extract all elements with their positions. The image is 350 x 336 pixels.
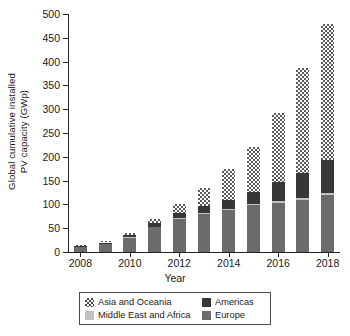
y-tick-mark: [63, 157, 68, 158]
bar-segment-mea: [321, 193, 334, 195]
bar-segment-mea: [198, 213, 211, 214]
y-tick-label: 400: [42, 56, 60, 67]
bar-segment-amer: [74, 246, 87, 247]
bar-segment-amer: [296, 173, 309, 198]
y-tick-mark: [63, 109, 68, 110]
bar-segment-mea: [272, 201, 285, 203]
bar-segment-amer: [123, 235, 136, 237]
bar-2014: [222, 169, 235, 252]
bar-segment-asia: [222, 169, 235, 199]
bar-2017: [296, 68, 309, 252]
bar-segment-europe: [198, 214, 211, 252]
legend-swatch-europe-icon: [202, 311, 211, 320]
legend-label: Asia and Oceania: [98, 296, 171, 308]
y-tick-label: 450: [42, 33, 60, 44]
bar-segment-asia: [247, 147, 260, 192]
bar-segment-europe: [247, 205, 260, 252]
bar-2012: [173, 204, 186, 252]
y-tick-label: 150: [42, 175, 60, 186]
bar-segment-europe: [222, 210, 235, 252]
bar-segment-asia: [74, 245, 87, 246]
bar-segment-asia: [148, 219, 161, 224]
bar-segment-mea: [247, 204, 260, 205]
legend-item-europe: Europe: [202, 309, 265, 321]
legend-swatch-asia-icon: [85, 298, 94, 307]
bar-segment-asia: [272, 113, 285, 182]
bar-segment-asia: [123, 233, 136, 235]
bar-segment-mea: [173, 218, 186, 219]
x-axis-title: Year: [0, 272, 350, 284]
y-tick-label: 0: [54, 247, 60, 258]
x-tick-label: 2012: [168, 258, 191, 269]
bar-segment-asia: [321, 24, 334, 161]
x-tick-label: 2016: [266, 258, 289, 269]
y-axis-title: Global cumulative installed PV capacity …: [0, 0, 34, 262]
y-tick-label: 100: [42, 199, 60, 210]
bar-segment-mea: [222, 209, 235, 210]
legend-item-asia: Asia and Oceania: [85, 296, 202, 308]
y-axis-title-line2: PV capacity (GWp): [17, 73, 29, 190]
legend-label: Europe: [215, 309, 245, 321]
plot-area: 050100150200250300350400450500 200820102…: [68, 14, 340, 253]
x-tick-label: 2010: [118, 258, 141, 269]
y-tick-mark: [63, 181, 68, 182]
bar-segment-mea: [296, 198, 309, 200]
x-tick-label: 2014: [217, 258, 240, 269]
legend-item-mea: Middle East and Africa: [85, 309, 202, 321]
bar-2018: [321, 24, 334, 252]
bar-segment-amer: [247, 192, 260, 204]
y-tick-label: 350: [42, 80, 60, 91]
y-axis-line: [68, 14, 69, 253]
y-tick-mark: [63, 252, 68, 253]
bar-2008: [74, 245, 87, 252]
y-tick-mark: [63, 85, 68, 86]
chart-figure: Global cumulative installed PV capacity …: [0, 0, 350, 336]
y-tick-mark: [63, 133, 68, 134]
y-tick-label: 500: [42, 9, 60, 20]
bar-segment-europe: [148, 227, 161, 252]
legend-swatch-amer-icon: [202, 298, 211, 307]
x-axis-line: [68, 252, 340, 253]
y-tick-mark: [63, 204, 68, 205]
bar-segment-europe: [321, 195, 334, 252]
bar-2013: [198, 188, 211, 252]
bar-segment-amer: [173, 213, 186, 218]
bar-segment-amer: [99, 243, 112, 244]
legend-item-amer: Americas: [202, 296, 265, 308]
y-tick-label: 50: [48, 223, 60, 234]
bar-segment-asia: [198, 188, 211, 207]
bar-2009: [99, 242, 112, 252]
bar-segment-amer: [222, 200, 235, 210]
x-tick-label: 2018: [316, 258, 339, 269]
bar-2011: [148, 219, 161, 252]
bar-2015: [247, 147, 260, 252]
bar-segment-asia: [296, 68, 309, 173]
legend-label: Middle East and Africa: [98, 309, 191, 321]
bar-2016: [272, 113, 285, 252]
bar-segment-europe: [99, 244, 112, 252]
y-tick-label: 250: [42, 128, 60, 139]
bar-segment-amer: [198, 206, 211, 213]
y-tick-mark: [63, 14, 68, 15]
bar-segment-europe: [173, 219, 186, 252]
y-tick-mark: [63, 228, 68, 229]
bar-segment-amer: [272, 182, 285, 201]
chart-legend: Asia and OceaniaAmericasMiddle East and …: [79, 292, 271, 325]
legend-label: Americas: [215, 296, 254, 308]
y-tick-mark: [63, 62, 68, 63]
bar-segment-asia: [99, 241, 112, 242]
y-tick-mark: [63, 38, 68, 39]
bar-segment-europe: [74, 247, 87, 252]
y-axis-title-line1: Global cumulative installed: [6, 73, 17, 190]
bar-2010: [123, 233, 136, 252]
x-tick-label: 2008: [69, 258, 92, 269]
y-tick-label: 200: [42, 152, 60, 163]
legend-swatch-mea-icon: [85, 311, 94, 320]
bar-segment-asia: [173, 204, 186, 212]
bar-segment-europe: [272, 203, 285, 253]
bar-segment-europe: [123, 238, 136, 252]
bar-segment-amer: [321, 160, 334, 192]
y-tick-label: 300: [42, 104, 60, 115]
bar-segment-europe: [296, 200, 309, 252]
bar-segment-amer: [148, 223, 161, 226]
